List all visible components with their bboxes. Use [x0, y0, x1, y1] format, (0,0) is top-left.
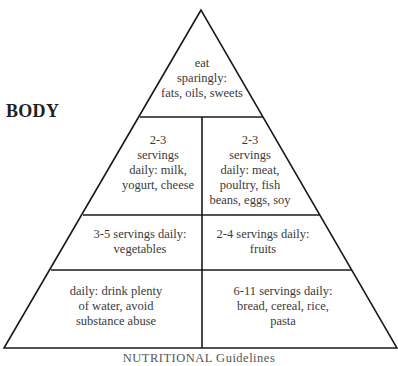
cell-fruits: 2-4 servings daily: fruits	[216, 227, 309, 257]
bottom-caption: NUTRITIONAL Guidelines	[0, 351, 398, 366]
cell-water: daily: drink plenty of water, avoid subs…	[70, 284, 162, 329]
cell-vegetables: 3-5 servings daily: vegetables	[93, 227, 186, 257]
body-label: BODY	[6, 101, 59, 122]
cell-meat-poultry-fish: 2-3 servings daily: meat, poultry, fish …	[209, 133, 290, 208]
cell-fats-oils-sweets: eat sparingly: fats, oils, sweets	[161, 56, 243, 101]
cell-bread-cereal-rice-pasta: 6-11 servings daily: bread, cereal, rice…	[226, 284, 341, 329]
cell-milk-yogurt-cheese: 2-3 servings daily: milk, yogurt, cheese	[122, 133, 194, 193]
